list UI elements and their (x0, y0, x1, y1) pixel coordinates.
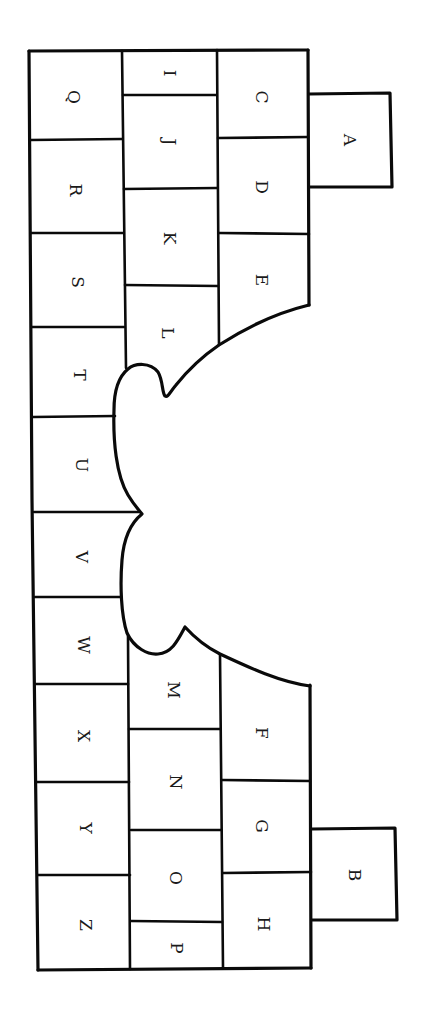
cell-label-G: G (252, 819, 272, 833)
cell-label-M: M (164, 681, 184, 698)
cell-label-F: F (252, 727, 272, 739)
outline-left (29, 51, 38, 970)
cell-label-Y: Y (76, 821, 96, 834)
cell-label-E: E (252, 274, 272, 286)
cell-label-X: X (74, 730, 94, 743)
cell-label-Q: Q (64, 90, 84, 104)
cell-label-P: P (167, 942, 187, 953)
column-divider-right (217, 50, 219, 345)
cell-label-V: V (72, 550, 92, 564)
cell-label-O: O (166, 871, 186, 885)
cell-label-S: S (68, 276, 88, 288)
cell-label-W: W (74, 636, 94, 654)
cell-label-K: K (160, 232, 180, 245)
cell-label-D: D (252, 180, 272, 194)
cell-label-T: T (70, 369, 90, 381)
outline-right-lower (310, 685, 311, 968)
outline-bottom (38, 968, 311, 970)
cell-label-I: I (160, 70, 180, 77)
cell-label-R: R (66, 184, 86, 198)
column-divider-left (122, 51, 126, 368)
cell-label-A: A (340, 133, 360, 147)
cell-label-U: U (72, 458, 92, 472)
cell-label-H: H (254, 917, 274, 932)
cell-label-J: J (160, 137, 180, 146)
column-divider-left-lower (128, 636, 130, 969)
letter-grid-diagram: ABCDEFGHIJKLMNOPQRSTUVWXYZ (0, 0, 432, 1013)
outline-right-upper (308, 50, 309, 305)
cell-label-Z: Z (76, 919, 96, 931)
cell-label-C: C (252, 90, 272, 103)
right-column-dividers (218, 137, 311, 873)
cell-label-L: L (158, 327, 178, 338)
left-column-dividers (30, 139, 139, 875)
curved-cutout (114, 305, 310, 686)
cell-label-N: N (166, 775, 186, 790)
outline-top (29, 50, 308, 51)
cell-label-B: B (345, 869, 365, 882)
